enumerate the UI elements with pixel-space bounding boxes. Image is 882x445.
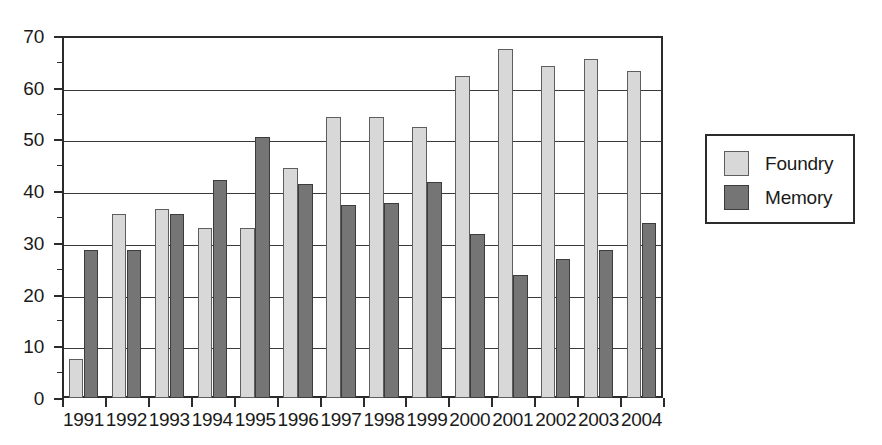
x-tick-mark-2000 (448, 398, 450, 407)
x-tick-mark-1993 (148, 398, 150, 407)
x-tick-mark-1999 (405, 398, 407, 407)
gridline-60 (64, 90, 661, 91)
x-tick-label-2004: 2004 (620, 410, 663, 429)
y-tick-label-10: 10 (0, 337, 44, 356)
x-tick-label-1994: 1994 (191, 410, 234, 429)
x-tick-mark-1998 (363, 398, 365, 407)
y-tick-label-40: 40 (0, 182, 44, 201)
x-tick-mark-1992 (105, 398, 107, 407)
x-tick-label-1998: 1998 (363, 410, 406, 429)
x-tick-label-2001: 2001 (491, 410, 534, 429)
x-tick-label-2003: 2003 (577, 410, 620, 429)
x-tick-label-1999: 1999 (405, 410, 448, 429)
x-tick-mark-2004 (620, 398, 622, 407)
x-tick-label-1993: 1993 (148, 410, 191, 429)
x-tick-label-1996: 1996 (277, 410, 320, 429)
y-tick-label-50: 50 (0, 130, 44, 149)
gridline-40 (64, 193, 661, 194)
gridline-30 (64, 245, 661, 246)
x-tick-label-2002: 2002 (534, 410, 577, 429)
plot-area (62, 36, 663, 398)
x-tick-label-1991: 1991 (62, 410, 105, 429)
x-tick-mark-2003 (577, 398, 579, 407)
x-tick-mark-1997 (320, 398, 322, 407)
memory-swatch-icon (724, 185, 749, 210)
x-tick-mark-1996 (277, 398, 279, 407)
y-tick-label-30: 30 (0, 234, 44, 253)
x-tick-mark-1994 (191, 398, 193, 407)
gridline-50 (64, 141, 661, 142)
x-tick-label-1997: 1997 (320, 410, 363, 429)
bar-chart-figure: 010203040506070 199119921993199419951996… (0, 0, 882, 445)
gridline-10 (64, 348, 661, 349)
x-tick-mark-2001 (491, 398, 493, 407)
legend-label-foundry: Foundry (765, 154, 833, 173)
x-tick-mark-end (663, 398, 665, 407)
x-tick-label-2000: 2000 (448, 410, 491, 429)
x-tick-mark-1991 (62, 398, 64, 407)
y-tick-label-70: 70 (0, 27, 44, 46)
foundry-swatch-icon (724, 151, 749, 176)
y-tick-label-60: 60 (0, 79, 44, 98)
y-tick-label-0: 0 (0, 389, 44, 408)
legend: Foundry Memory (705, 134, 855, 224)
legend-entry-memory: Memory (724, 184, 832, 210)
x-tick-label-1992: 1992 (105, 410, 148, 429)
x-tick-mark-2002 (534, 398, 536, 407)
y-tick-label-20: 20 (0, 286, 44, 305)
legend-entry-foundry: Foundry (724, 150, 833, 176)
x-tick-label-1995: 1995 (234, 410, 277, 429)
x-tick-mark-1995 (234, 398, 236, 407)
gridline-20 (64, 297, 661, 298)
legend-label-memory: Memory (765, 188, 832, 207)
